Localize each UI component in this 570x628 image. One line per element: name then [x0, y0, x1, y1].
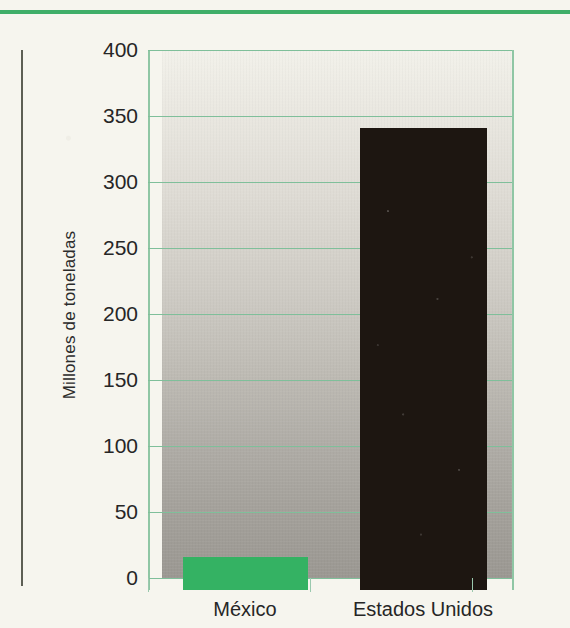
y-tick-label-200: 200 — [103, 302, 138, 326]
x-tick-label-estados-unidos: Estados Unidos — [353, 598, 493, 621]
gridline-400 — [148, 50, 512, 51]
x-tick-mark-left — [148, 578, 149, 592]
left-vertical-rule — [21, 50, 23, 586]
x-tick-mark-mid — [310, 578, 311, 592]
plot-right-border-line — [512, 50, 514, 590]
y-tick-label-100: 100 — [103, 434, 138, 458]
y-tick-label-0: 0 — [126, 566, 138, 590]
y-tick-label-400: 400 — [103, 38, 138, 62]
gridline-350 — [148, 116, 512, 117]
y-axis-title: Millones de toneladas — [60, 185, 80, 445]
y-axis-line — [148, 50, 150, 590]
y-tick-label-250: 250 — [103, 236, 138, 260]
y-tick-label-50: 50 — [115, 500, 138, 524]
top-green-rule — [0, 10, 570, 14]
y-tick-label-350: 350 — [103, 104, 138, 128]
x-tick-label-mexico: México — [213, 598, 276, 621]
plot-area: 400 350 300 250 200 150 100 50 0 México … — [148, 50, 514, 590]
y-tick-label-150: 150 — [103, 368, 138, 392]
x-tick-mark-right — [472, 578, 473, 592]
bar-estados-unidos[interactable] — [360, 128, 487, 590]
bar-mexico[interactable] — [183, 557, 308, 590]
chart-page: Millones de toneladas 400 350 300 250 20… — [0, 0, 570, 628]
y-tick-label-300: 300 — [103, 170, 138, 194]
